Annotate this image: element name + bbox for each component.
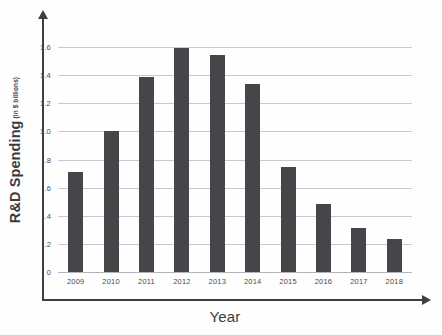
bar <box>351 228 366 272</box>
gridline: 1.4 <box>58 75 412 76</box>
gridline: 1.6 <box>58 47 412 48</box>
bar <box>210 55 225 272</box>
x-axis-tick-label: 2013 <box>209 277 227 286</box>
y-axis-tick-label: 0 <box>47 268 51 277</box>
x-axis-tick-label: 2014 <box>244 277 262 286</box>
bar <box>387 239 402 272</box>
x-axis-tick-label: 2011 <box>138 277 155 286</box>
x-axis-tick-label: 2018 <box>386 277 404 286</box>
gridline: 1.2 <box>58 103 412 104</box>
bar <box>174 48 189 272</box>
x-axis-tick-label: 2010 <box>102 277 120 286</box>
x-axis-arrow-icon <box>422 295 431 305</box>
bar <box>68 172 83 272</box>
x-axis-tick-label: 2017 <box>350 277 368 286</box>
x-axis-tick-label: 2012 <box>173 277 191 286</box>
y-axis-tick-label: 1.2 <box>40 99 51 108</box>
gridline: 0 <box>58 272 412 273</box>
bar-chart: 0.2.4.6.81.01.21.41.6 200920102011201220… <box>0 0 442 335</box>
y-axis-tick-label: 1.6 <box>40 43 51 52</box>
bar <box>104 131 119 272</box>
bar <box>316 204 331 272</box>
y-axis-arrow-icon <box>38 10 48 19</box>
plot-area: 0.2.4.6.81.01.21.41.6 <box>58 47 412 272</box>
x-axis-tick-label: 2015 <box>279 277 297 286</box>
x-axis-line <box>42 299 424 301</box>
y-axis-tick-label: .8 <box>44 155 51 164</box>
y-axis-title: R&D Spending(in $ billions) <box>0 0 33 300</box>
y-axis-tick-label: 1.4 <box>40 71 51 80</box>
bar <box>139 77 154 272</box>
y-axis-tick-label: .4 <box>44 211 51 220</box>
bar <box>245 84 260 272</box>
y-axis-tick-label: 1.0 <box>40 127 51 136</box>
y-axis-title-units: (in $ billions) <box>12 77 19 119</box>
y-axis-title-main: R&D Spending <box>7 120 23 223</box>
x-axis-tick-label: 2009 <box>67 277 85 286</box>
y-axis-tick-label: .2 <box>44 239 51 248</box>
bar <box>281 167 296 272</box>
x-axis-title: Year <box>0 308 442 325</box>
x-axis-tick-label: 2016 <box>315 277 333 286</box>
y-axis-tick-label: .6 <box>44 183 51 192</box>
